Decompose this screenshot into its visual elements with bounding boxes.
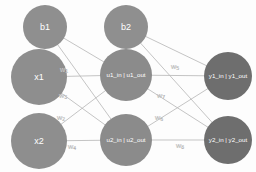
node-u1[interactable]: u1_in | u1_out — [100, 49, 152, 101]
edge-u1-y1 — [150, 75, 206, 76]
node-circle-y2[interactable] — [204, 116, 252, 164]
node-y2[interactable]: y2_in | y2_out — [204, 116, 252, 164]
neural-network-diagram: b1x1x2b2u1_in | u1_outu2_in | u2_outy1_i… — [0, 0, 256, 172]
node-circle-b2[interactable] — [104, 5, 148, 49]
weight-label-w8: w8 — [175, 141, 184, 150]
node-circle-x2[interactable] — [11, 113, 67, 169]
edge-x1-u2 — [60, 92, 107, 126]
node-circle-u2[interactable] — [100, 114, 152, 166]
node-circle-u1[interactable] — [100, 49, 152, 101]
node-x1[interactable]: x1 — [11, 49, 67, 105]
node-circle-b1[interactable] — [23, 5, 67, 49]
network-svg: b1x1x2b2u1_in | u1_outu2_in | u2_outy1_i… — [0, 0, 256, 172]
node-x2[interactable]: x2 — [11, 113, 67, 169]
edge-b2-y1 — [144, 36, 208, 67]
nodes-group: b1x1x2b2u1_in | u1_outu2_in | u2_outy1_i… — [11, 5, 252, 169]
edge-b1-u1 — [62, 37, 105, 63]
weight-label-w5: w5 — [170, 62, 179, 71]
node-u2[interactable]: u2_in | u2_out — [100, 114, 152, 166]
node-b2[interactable]: b2 — [104, 5, 148, 49]
node-y1[interactable]: y1_in | y1_out — [204, 52, 252, 100]
weight-label-w4: w4 — [67, 142, 76, 151]
edge-x1-u1 — [65, 76, 102, 77]
node-circle-x1[interactable] — [11, 49, 67, 105]
node-circle-y1[interactable] — [204, 52, 252, 100]
node-b1[interactable]: b1 — [23, 5, 67, 49]
edge-x2-u1 — [60, 90, 107, 126]
